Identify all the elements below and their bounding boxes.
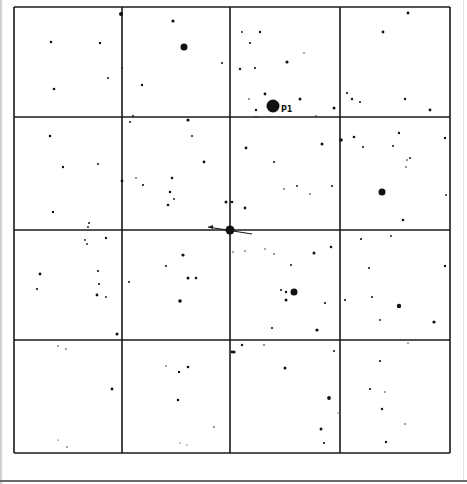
star — [181, 253, 184, 256]
star — [362, 146, 364, 148]
star — [353, 136, 356, 139]
star — [186, 444, 187, 445]
star — [333, 107, 336, 110]
star — [65, 348, 66, 349]
star — [225, 201, 228, 204]
star — [379, 360, 381, 362]
star — [360, 238, 362, 240]
star — [96, 294, 99, 297]
arrow-icon — [208, 225, 213, 229]
star — [245, 147, 248, 150]
star — [321, 143, 324, 146]
star — [86, 243, 88, 245]
star — [285, 60, 288, 63]
star — [346, 92, 348, 94]
star — [371, 296, 373, 298]
star — [232, 251, 233, 252]
star — [379, 189, 386, 196]
star — [248, 98, 250, 100]
star — [315, 115, 317, 117]
star — [203, 161, 206, 164]
star — [135, 177, 137, 179]
star — [405, 166, 407, 168]
star — [142, 184, 144, 186]
star — [444, 137, 446, 139]
star — [171, 19, 174, 22]
star — [331, 185, 333, 187]
star — [167, 204, 170, 207]
star — [303, 52, 304, 53]
star — [445, 194, 447, 196]
star — [119, 12, 123, 16]
star — [88, 222, 90, 224]
star — [432, 320, 435, 323]
star — [97, 270, 99, 272]
star — [296, 185, 298, 187]
star — [407, 12, 410, 15]
star — [173, 198, 175, 200]
star — [165, 365, 166, 366]
star — [384, 391, 385, 392]
star — [255, 116, 256, 117]
star — [62, 166, 64, 168]
star — [241, 31, 243, 33]
star — [392, 145, 394, 147]
star — [116, 333, 119, 336]
star — [111, 388, 114, 391]
star — [285, 291, 287, 293]
star — [327, 396, 331, 400]
star — [284, 367, 287, 370]
star — [263, 344, 265, 346]
star — [444, 265, 446, 267]
star — [283, 188, 285, 190]
star — [186, 118, 189, 121]
star — [66, 446, 67, 447]
star — [398, 132, 400, 134]
star — [273, 161, 275, 163]
star — [254, 67, 256, 69]
star — [181, 44, 188, 51]
star — [381, 408, 383, 410]
star — [178, 299, 182, 303]
star — [264, 93, 267, 96]
star — [107, 77, 109, 79]
star — [382, 31, 385, 34]
star — [52, 211, 54, 213]
star — [390, 235, 392, 237]
star — [165, 265, 167, 267]
star — [105, 237, 107, 239]
star — [99, 42, 101, 44]
star — [249, 42, 251, 44]
star — [179, 442, 180, 443]
star — [313, 252, 316, 255]
star — [232, 350, 235, 353]
star — [379, 319, 381, 321]
star — [406, 159, 408, 161]
star — [244, 207, 247, 210]
star — [404, 423, 406, 425]
star — [187, 366, 190, 369]
star — [333, 350, 335, 352]
star — [87, 226, 89, 228]
star — [315, 328, 318, 331]
star — [57, 439, 58, 440]
target-star — [226, 226, 235, 235]
star — [129, 121, 131, 123]
star — [351, 98, 353, 100]
star — [231, 201, 234, 204]
star — [239, 68, 241, 70]
star — [429, 109, 432, 112]
star — [359, 101, 361, 103]
star — [105, 296, 107, 298]
star — [339, 138, 343, 142]
star — [368, 267, 370, 269]
star — [255, 109, 257, 111]
star-finder-chart: P1 — [0, 0, 467, 484]
star — [195, 277, 198, 280]
star — [280, 289, 282, 291]
star — [169, 191, 172, 194]
star — [290, 264, 292, 266]
star — [264, 248, 265, 249]
star — [369, 388, 371, 390]
bottom-rule — [0, 480, 467, 482]
